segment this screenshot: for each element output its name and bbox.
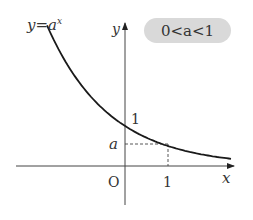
graph-canvas: 0<a<1 y=ax y x O 1 1 a bbox=[0, 0, 253, 220]
condition-badge: 0<a<1 bbox=[161, 22, 214, 40]
function-label: y=ax bbox=[26, 16, 62, 34]
y-value-label-a: a bbox=[109, 135, 118, 153]
x-tick-label-1: 1 bbox=[163, 174, 172, 190]
origin-label: O bbox=[108, 174, 119, 190]
x-axis-label: x bbox=[222, 169, 231, 187]
exponential-curve bbox=[47, 25, 231, 158]
y-axis-label: y bbox=[111, 21, 121, 37]
y-intercept-label: 1 bbox=[131, 111, 140, 127]
